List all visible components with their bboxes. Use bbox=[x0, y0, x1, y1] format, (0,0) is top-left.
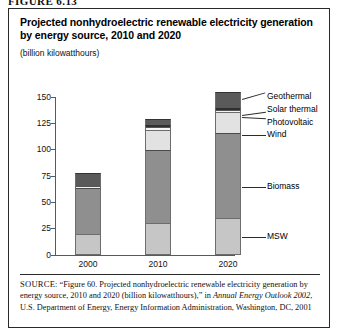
y-axis-line bbox=[55, 97, 56, 256]
segment-2020-msw bbox=[215, 218, 241, 255]
bar-2000-baseline bbox=[75, 254, 101, 255]
source-keyword: SOURCE bbox=[20, 279, 55, 289]
bar-2010 bbox=[145, 9, 171, 255]
segment-2020-geothermal bbox=[215, 92, 241, 108]
y-tick-150: 150 bbox=[9, 93, 51, 101]
y-tick-mark-50 bbox=[51, 202, 55, 203]
source-note: SOURCE: “Figure 60. Projected nonhydroel… bbox=[20, 279, 322, 313]
y-tick-75: 75 bbox=[9, 172, 51, 180]
segment-2000-msw bbox=[75, 234, 101, 255]
legend-label-solar-thermal: Solar thermal bbox=[267, 105, 318, 114]
bar-stack-2020 bbox=[215, 92, 241, 255]
source-divider bbox=[20, 274, 320, 275]
leader-line-solar-thermal bbox=[242, 112, 266, 116]
x-axis-line bbox=[55, 255, 235, 256]
bar-2020-baseline bbox=[215, 254, 241, 255]
x-tick-2020: 2020 bbox=[203, 259, 253, 269]
y-tick-mark-0 bbox=[51, 255, 55, 256]
bar-2010-baseline bbox=[145, 254, 171, 255]
y-tick-0: 0 bbox=[9, 251, 51, 259]
segment-2010-msw bbox=[145, 223, 171, 255]
segment-2010-biomass bbox=[145, 150, 171, 223]
bar-stack-2010 bbox=[145, 119, 171, 255]
figure-number: FIGURE 6.13 bbox=[8, 0, 77, 7]
leader-line-wind bbox=[242, 135, 266, 136]
legend-label-geothermal: Geothermal bbox=[267, 92, 311, 101]
chart-plot-area: 150 125 100 75 50 25 0 bbox=[9, 9, 331, 271]
y-tick-mark-150 bbox=[51, 97, 55, 98]
legend-label-biomass: Biomass bbox=[267, 182, 300, 191]
segment-2010-wind bbox=[145, 130, 171, 150]
figure-box: Projected nonhydroelectric renewable ele… bbox=[8, 8, 330, 328]
leader-line-geothermal bbox=[242, 92, 265, 100]
y-tick-mark-25 bbox=[51, 228, 55, 229]
y-tick-mark-75 bbox=[51, 176, 55, 177]
legend-label-msw: MSW bbox=[267, 232, 288, 241]
y-tick-25: 25 bbox=[9, 224, 51, 232]
x-tick-2010: 2010 bbox=[133, 259, 183, 269]
legend-label-photovoltaic: Photovoltaic bbox=[267, 118, 313, 127]
legend-label-wind: Wind bbox=[267, 130, 286, 139]
segment-2020-biomass bbox=[215, 133, 241, 218]
y-tick-100: 100 bbox=[9, 145, 51, 153]
y-tick-mark-125 bbox=[51, 123, 55, 124]
y-tick-50: 50 bbox=[9, 198, 51, 206]
segment-2000-biomass bbox=[75, 188, 101, 234]
segment-2020-wind bbox=[215, 112, 241, 133]
source-publication-title: Annual Energy Outlook 2002 bbox=[213, 291, 310, 300]
leader-line-photovoltaic bbox=[242, 117, 266, 119]
leader-line-msw bbox=[242, 237, 266, 238]
bar-stack-2000 bbox=[75, 173, 101, 255]
y-tick-125: 125 bbox=[9, 119, 51, 127]
leader-line-biomass bbox=[242, 187, 266, 188]
bar-2000 bbox=[75, 9, 101, 255]
segment-2000-geothermal bbox=[75, 173, 101, 186]
y-tick-mark-100 bbox=[51, 149, 55, 150]
bar-2020 bbox=[215, 9, 241, 255]
x-tick-2000: 2000 bbox=[63, 259, 113, 269]
